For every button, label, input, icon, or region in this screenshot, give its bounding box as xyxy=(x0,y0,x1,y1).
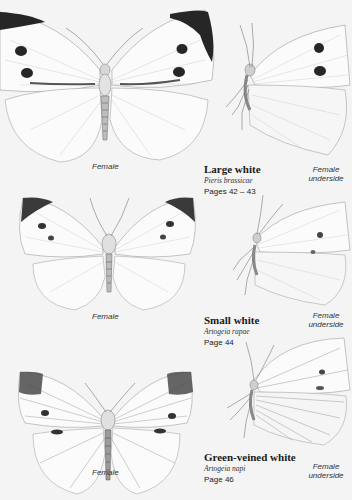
green-veined-white-upperside-caption: Female xyxy=(92,468,119,477)
large-white-underside-caption: Female underside xyxy=(300,165,352,183)
green-veined-white-label: Green-veined white Artogeia napi Page 46 xyxy=(204,451,296,486)
large-white-upperside-caption: Female xyxy=(92,162,119,171)
butterfly-underside-icon xyxy=(225,190,352,310)
species-latin-name: Pieris brassicae xyxy=(204,176,261,186)
underside-caption-line1: Female xyxy=(300,165,352,174)
butterfly-underside-icon xyxy=(220,15,352,165)
species-page-ref: Page 46 xyxy=(204,474,296,486)
butterfly-upperside-icon xyxy=(0,0,215,165)
small-white-underside-illustration xyxy=(225,190,352,310)
butterfly-underside-icon xyxy=(222,330,352,452)
butterfly-upperside-icon xyxy=(15,192,200,314)
green-veined-white-underside-caption: Female underside xyxy=(300,462,352,480)
small-white-underside-caption: Female underside xyxy=(300,311,352,329)
underside-caption-line2: underside xyxy=(300,471,352,480)
underside-caption-line2: underside xyxy=(300,174,352,183)
green-veined-white-upperside-illustration xyxy=(15,368,195,500)
underside-caption-line1: Female xyxy=(300,462,352,471)
species-common-name: Large white xyxy=(204,163,261,176)
butterfly-upperside-icon xyxy=(15,368,195,500)
species-latin-name: Artogeia napi xyxy=(204,464,296,474)
small-white-upperside-caption: Female xyxy=(92,312,119,321)
species-common-name: Green-veined white xyxy=(204,451,296,464)
small-white-upperside-illustration xyxy=(15,192,200,314)
large-white-upperside-illustration xyxy=(0,0,215,165)
large-white-underside-illustration xyxy=(220,15,352,165)
underside-caption-line2: underside xyxy=(300,320,352,329)
species-common-name: Small white xyxy=(204,314,259,327)
underside-caption-line1: Female xyxy=(300,311,352,320)
green-veined-white-underside-illustration xyxy=(222,330,352,452)
